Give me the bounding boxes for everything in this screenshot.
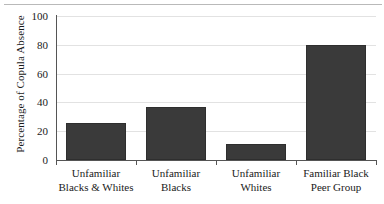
x-tick-edge-4 xyxy=(376,161,377,165)
y-tick-label-40: 40 xyxy=(14,97,48,108)
x-axis-label-2: UnfamiliarWhites xyxy=(216,166,296,202)
bar-1 xyxy=(146,107,206,160)
y-tick-label-60: 60 xyxy=(14,69,48,80)
x-axis-label-line2: Blacks xyxy=(136,180,216,194)
x-axis-label-line2: Whites xyxy=(216,180,296,194)
x-axis-label-0: UnfamiliarBlacks & Whites xyxy=(56,166,136,202)
x-axis-label-line1: Unfamiliar xyxy=(232,167,280,179)
bar-chart-figure: Percentage of Copula Absence 02040608010… xyxy=(0,0,384,204)
y-tick-label-80: 80 xyxy=(14,40,48,51)
bar-2 xyxy=(226,144,286,160)
x-axis-label-3: Familiar BlackPeer Group xyxy=(296,166,376,202)
y-tick-label-100: 100 xyxy=(14,11,48,22)
bar-0 xyxy=(66,123,126,160)
x-axis-label-line1: Unfamiliar xyxy=(72,167,120,179)
x-tick-edge-0 xyxy=(56,161,57,165)
bars-layer xyxy=(56,16,376,160)
x-tick-1 xyxy=(136,161,137,165)
bar-3 xyxy=(306,45,366,160)
x-axis-label-line1: Familiar Black xyxy=(303,167,369,179)
x-tick-2 xyxy=(216,161,217,165)
x-axis-label-line2: Blacks & Whites xyxy=(56,180,136,194)
x-axis-label-line2: Peer Group xyxy=(296,180,376,194)
x-axis-label-line1: Unfamiliar xyxy=(152,167,200,179)
x-axis-label-1: UnfamiliarBlacks xyxy=(136,166,216,202)
y-tick-label-0: 0 xyxy=(14,155,48,166)
x-axis-tick-labels: UnfamiliarBlacks & WhitesUnfamiliarBlack… xyxy=(56,166,376,202)
y-tick-label-20: 20 xyxy=(14,126,48,137)
x-tick-3 xyxy=(296,161,297,165)
